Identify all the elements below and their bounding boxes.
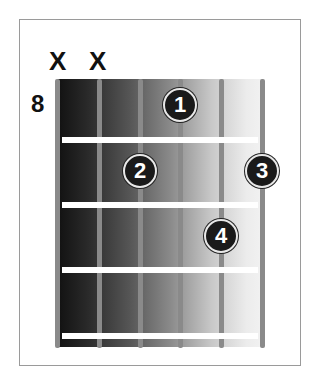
string-6: [260, 79, 265, 348]
fret-line-3: [62, 267, 258, 273]
muted-string-marker: X: [49, 48, 66, 74]
fret-line-2: [62, 202, 258, 208]
string-2: [97, 79, 102, 348]
finger-marker-3: 3: [245, 154, 279, 188]
string-3: [138, 79, 143, 348]
string-1: [55, 79, 60, 348]
finger-marker-1: 1: [163, 88, 197, 122]
string-5: [219, 79, 224, 348]
start-fret-label: 8: [31, 92, 44, 116]
fretboard: [57, 79, 263, 347]
muted-string-marker: X: [89, 48, 106, 74]
fret-line-4: [62, 333, 258, 339]
finger-marker-2: 2: [123, 154, 157, 188]
fret-line-1: [62, 137, 258, 143]
finger-marker-4: 4: [204, 219, 238, 253]
